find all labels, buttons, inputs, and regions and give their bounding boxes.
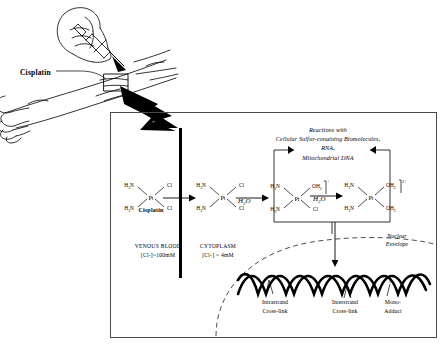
cisplatin-callout-label: Cisplatin xyxy=(20,68,51,77)
svg-text:OH2: OH2 xyxy=(386,205,396,213)
svg-text:H3N: H3N xyxy=(196,205,206,213)
svg-text:Cl: Cl xyxy=(239,182,245,188)
reagent-water-1: H2O xyxy=(238,197,251,206)
nuclear-envelope-line-2: Envelope xyxy=(370,240,424,248)
svg-text:H3N: H3N xyxy=(344,182,354,190)
svg-text:2+: 2+ xyxy=(402,179,407,184)
svg-text:OH2: OH2 xyxy=(312,183,322,191)
svg-text:Cl: Cl xyxy=(167,182,173,188)
svg-text:OH2: OH2 xyxy=(386,182,396,190)
svg-text:+: + xyxy=(327,179,330,184)
interstrand-line-1: Interstrand xyxy=(318,298,372,307)
svg-text:Pt: Pt xyxy=(148,194,153,201)
svg-text:H3N: H3N xyxy=(124,182,134,190)
svg-text:Pt: Pt xyxy=(267,274,271,279)
monoadduct-line-2: Adduct xyxy=(372,307,414,316)
nuclear-envelope-line-1: Nuclear xyxy=(370,232,424,240)
svg-text:Cl: Cl xyxy=(313,206,319,212)
structure-diaqua-complex: Pt H3N H3N OH2 OH2 2+ xyxy=(342,173,400,217)
svg-text:Pt: Pt xyxy=(389,279,393,284)
svg-text:H3N: H3N xyxy=(196,182,206,190)
svg-text:Pt: Pt xyxy=(345,281,349,286)
figure-root: Cisplatin VENOUS BLOOD [Cl-]~100mM CYTOP… xyxy=(0,0,441,351)
structure-cisplatin-caption: Cisplatin xyxy=(122,207,180,213)
monoadduct-line-1: Mono- xyxy=(372,298,414,307)
nuclear-envelope-label: Nuclear Envelope xyxy=(370,232,424,248)
label-mono-adduct: Mono- Adduct xyxy=(372,298,414,315)
arrow-into-nucleus xyxy=(330,222,340,268)
svg-text:H3N: H3N xyxy=(344,205,354,213)
intrastrand-line-2: Cross-link xyxy=(247,307,303,316)
svg-text:H3N: H3N xyxy=(270,206,280,214)
reagent-water-2: H2O xyxy=(313,195,326,204)
reactions-note-line-2: Cellular Sulfur-conaining Biomolecules, xyxy=(248,134,408,143)
reactions-note-line-1: Reactions with xyxy=(248,125,408,134)
svg-text:Pt: Pt xyxy=(220,194,225,201)
label-interstrand-crosslink: Interstrand Cross-link xyxy=(318,298,372,315)
intrastrand-line-1: Intrastrand xyxy=(247,298,303,307)
monoadduct-marker: Pt xyxy=(382,278,400,300)
svg-text:Pt: Pt xyxy=(294,195,299,202)
svg-text:H3N: H3N xyxy=(270,183,280,191)
interstrand-line-2: Cross-link xyxy=(318,307,372,316)
svg-text:Pt: Pt xyxy=(368,194,373,201)
arrow-membrane-transport xyxy=(163,193,197,203)
label-intrastrand-crosslink: Intrastrand Cross-link xyxy=(247,298,303,315)
intrastrand-adduct-marker: Pt xyxy=(262,272,280,298)
